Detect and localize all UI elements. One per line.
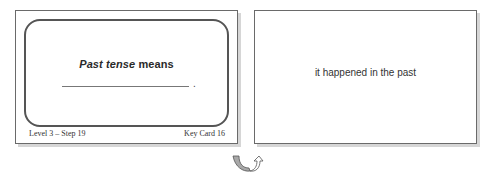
key-card-label: Key Card 16: [184, 129, 225, 138]
prompt-term: Past tense: [79, 58, 135, 70]
back-card[interactable]: it happened in the past: [254, 10, 477, 144]
card-answer: it happened in the past: [255, 67, 476, 78]
front-card[interactable]: Past tense means . Level 3 – Step 19 Key…: [15, 10, 238, 144]
front-card-frame: Past tense means .: [24, 19, 229, 127]
level-step-label: Level 3 – Step 19: [29, 129, 85, 138]
blank-period: .: [193, 78, 196, 89]
flip-card-arrow-icon[interactable]: [231, 153, 265, 175]
answer-blank-line: [62, 86, 189, 87]
prompt-rest: means: [135, 58, 174, 70]
card-prompt: Past tense means: [26, 58, 227, 70]
